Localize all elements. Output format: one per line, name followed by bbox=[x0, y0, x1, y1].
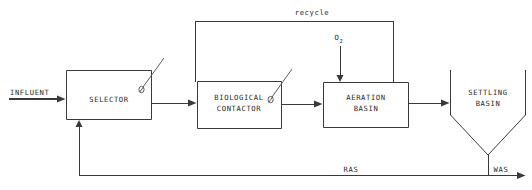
aeration-to-settling-stream bbox=[409, 100, 450, 107]
settling-basin-label-line1: SETTLING bbox=[468, 88, 507, 97]
ras-label: RAS bbox=[344, 165, 359, 174]
was-arrow-icon bbox=[517, 172, 526, 179]
oxygen-feed-stream: O2 bbox=[335, 33, 344, 82]
oxygen-label: O2 bbox=[335, 33, 344, 44]
influent-stream: INFLUENT bbox=[9, 88, 66, 103]
ras-line bbox=[79, 126, 488, 176]
ras-arrow-icon bbox=[76, 120, 83, 127]
was-stream: WAS bbox=[488, 165, 526, 179]
settling-basin-label-line2: BASIN bbox=[476, 99, 501, 108]
aeration-basin-label-line1: AERATION bbox=[346, 93, 385, 102]
biological-contactor-vessel: BIOLOGICAL CONTACTOR bbox=[198, 69, 293, 129]
recycle-label: recycle bbox=[295, 8, 330, 17]
influent-arrow-icon bbox=[57, 96, 66, 103]
process-flow-diagram: INFLUENT SELECTOR BIOLOGICAL C bbox=[0, 0, 532, 190]
selector-to-contactor-stream bbox=[152, 100, 197, 107]
oxygen-feed-arrow-icon bbox=[337, 75, 344, 82]
biological-contactor-label-line1: BIOLOGICAL bbox=[214, 93, 263, 102]
selector-vessel: SELECTOR bbox=[67, 58, 165, 120]
selector-outlet-arrow-icon bbox=[188, 100, 197, 107]
settling-basin-vessel: SETTLING BASIN bbox=[451, 70, 526, 175]
selector-label: SELECTOR bbox=[89, 95, 128, 104]
was-label: WAS bbox=[494, 165, 509, 174]
recycle-stream: recycle bbox=[196, 8, 394, 83]
contactor-outlet-arrow-icon bbox=[314, 101, 323, 108]
flow-diagram-canvas: INFLUENT SELECTOR BIOLOGICAL C bbox=[0, 0, 532, 190]
aeration-basin-vessel: AERATION BASIN bbox=[324, 83, 409, 128]
settling-basin-hopper bbox=[451, 70, 526, 155]
recycle-line bbox=[196, 22, 394, 83]
influent-label: INFLUENT bbox=[10, 88, 49, 97]
aeration-basin-label-line2: BASIN bbox=[354, 104, 379, 113]
biological-contactor-label-line2: CONTACTOR bbox=[217, 104, 261, 113]
contactor-to-aeration-stream bbox=[282, 101, 323, 108]
aeration-outlet-arrow-icon bbox=[441, 100, 450, 107]
